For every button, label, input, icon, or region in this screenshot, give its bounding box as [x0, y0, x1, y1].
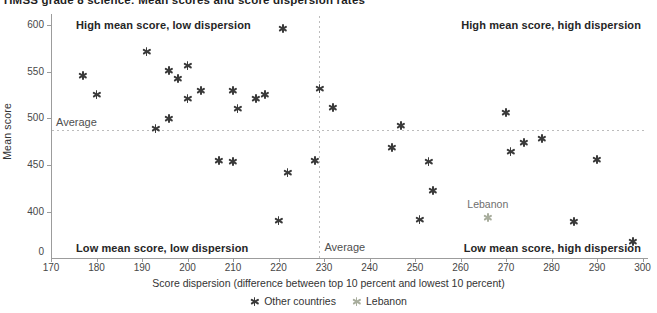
- quadrant-label-top-right: High mean score, high dispersion: [461, 19, 641, 31]
- chart-title: TIMSS grade 8 science: Mean scores and s…: [2, 0, 365, 6]
- data-point: [429, 186, 438, 195]
- data-point: [397, 121, 406, 130]
- legend-item-other-countries: Other countries: [250, 295, 336, 307]
- data-point: [415, 215, 424, 224]
- data-point: [260, 90, 269, 99]
- y-axis-tick: [47, 72, 51, 73]
- data-point: [229, 86, 238, 95]
- y-axis-tick: [47, 165, 51, 166]
- data-point: [310, 156, 319, 165]
- data-point: [388, 143, 397, 152]
- quadrant-label-top-left: High mean score, low dispersion: [76, 19, 251, 31]
- chart: TIMSS grade 8 science: Mean scores and s…: [0, 0, 657, 313]
- data-point: [315, 84, 324, 93]
- x-axis-tick-label: 170: [36, 263, 66, 273]
- legend: Other countries Lebanon: [0, 295, 657, 307]
- quadrant-label-bottom-left: Low mean score, low dispersion: [76, 242, 248, 254]
- data-point: [329, 103, 338, 112]
- average-label-dispersion: Average: [324, 241, 365, 253]
- data-point: [274, 216, 283, 225]
- data-point: [251, 94, 260, 103]
- x-axis-tick-label: 190: [127, 263, 157, 273]
- asterisk-marker-icon: [352, 297, 361, 306]
- data-point: [593, 155, 602, 164]
- data-point: [229, 157, 238, 166]
- x-axis-tick-label: 220: [264, 263, 294, 273]
- x-axis-tick-label: 290: [582, 263, 612, 273]
- x-axis-label: Score dispersion (difference between top…: [0, 277, 657, 289]
- x-axis-tick-label: 300: [628, 263, 657, 273]
- data-point: [506, 147, 515, 156]
- x-axis-tick-label: 280: [537, 263, 567, 273]
- data-point: [538, 134, 547, 143]
- y-axis-tick-label: 400: [16, 207, 44, 217]
- legend-label-other-countries: Other countries: [264, 295, 336, 307]
- lebanon-label: Lebanon: [467, 198, 508, 210]
- y-axis-tick-label: 600: [16, 20, 44, 30]
- y-axis-line: [51, 14, 52, 259]
- y-axis-tick-label: 500: [16, 113, 44, 123]
- y-axis-tick: [47, 25, 51, 26]
- data-point: [165, 66, 174, 75]
- data-point: [424, 157, 433, 166]
- x-axis-tick-label: 240: [355, 263, 385, 273]
- data-point: [174, 74, 183, 83]
- data-point: [142, 47, 151, 56]
- data-point: [78, 71, 87, 80]
- x-axis-tick-label: 230: [309, 263, 339, 273]
- data-point: [629, 237, 638, 246]
- x-axis-tick-label: 200: [173, 263, 203, 273]
- x-axis-tick-label: 260: [446, 263, 476, 273]
- legend-item-lebanon: Lebanon: [352, 295, 407, 307]
- asterisk-marker-icon: [250, 297, 259, 306]
- y-axis-label: Mean score: [1, 103, 13, 160]
- lebanon-data-point: [483, 213, 492, 222]
- average-label-mean-score: Average: [56, 116, 97, 128]
- data-point: [165, 114, 174, 123]
- data-point: [183, 61, 192, 70]
- x-axis-tick-label: 250: [400, 263, 430, 273]
- data-point: [502, 108, 511, 117]
- data-point: [151, 124, 160, 133]
- data-point: [570, 217, 579, 226]
- x-axis-tick-label: 180: [82, 263, 112, 273]
- data-point: [215, 156, 224, 165]
- average-dispersion-line: [319, 16, 320, 258]
- data-point: [197, 86, 206, 95]
- x-axis-tick-label: 270: [491, 263, 521, 273]
- y-axis-tick-label: 550: [16, 67, 44, 77]
- data-point: [183, 94, 192, 103]
- quadrant-label-bottom-right: Low mean score, high dispersion: [464, 242, 641, 254]
- y-axis-tick: [47, 212, 51, 213]
- x-axis-line: [51, 258, 648, 259]
- data-point: [233, 104, 242, 113]
- y-axis-tick-label: 450: [16, 160, 44, 170]
- average-mean-score-line: [52, 130, 647, 131]
- data-point: [283, 168, 292, 177]
- y-axis-origin-label: 0: [16, 247, 44, 257]
- legend-label-lebanon: Lebanon: [366, 295, 407, 307]
- data-point: [279, 24, 288, 33]
- y-axis-tick: [47, 118, 51, 119]
- data-point: [520, 138, 529, 147]
- x-axis-tick-label: 210: [218, 263, 248, 273]
- data-point: [92, 90, 101, 99]
